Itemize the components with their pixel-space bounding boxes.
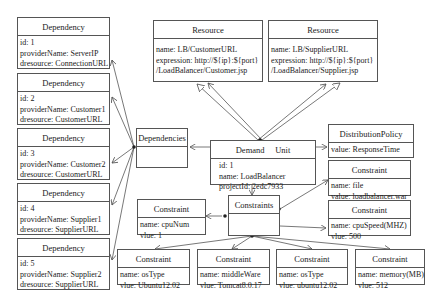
constraint-title: Constraint (329, 201, 410, 219)
dependencies-group-title: Dependencies (137, 129, 187, 147)
demand-unit-id: id: 1 (219, 161, 313, 172)
resource-expression: expression: http://${ip}:${port} (156, 56, 260, 67)
constraints-group-title: Constraints (229, 196, 279, 214)
resource-box-supplier[interactable]: Resource name: LB/SupplierURL expression… (268, 20, 378, 82)
dependency-provider-name: providerName: Supplier1 (20, 215, 107, 226)
dependency-dresource: dresource: CustomerURL (20, 170, 107, 181)
dependency-dresource: dresource: SupplierURL (20, 280, 107, 291)
dependency-id: id: 1 (20, 38, 107, 49)
constraint-name: name: cpuSpeed(MHZ) (331, 221, 408, 232)
dependency-provider-name: providerName: Customer2 (20, 160, 107, 171)
constraint-title: Constraint (138, 200, 205, 218)
dependency-title: Dependency (18, 129, 109, 147)
demand-unit-project-id: projectId: 2edc7933 (219, 182, 313, 193)
dependency-id: id: 2 (20, 94, 107, 105)
resource-path: /LoadBalancer/Supplier.jsp (271, 66, 375, 77)
constraint-value: vlue: 500 (331, 232, 408, 243)
constraint-title: Constraint (356, 250, 424, 268)
constraint-name: name: memory(MB) (358, 270, 422, 281)
dependency-box-4[interactable]: Dependency id: 4 providerName: Supplier1… (17, 183, 110, 235)
dependency-box-2[interactable]: Dependency id: 2 providerName: Customer1… (17, 73, 110, 125)
dependency-provider-name: providerName: Supplier2 (20, 270, 107, 281)
constraint-box-ostype-2[interactable]: Constraint name: osType vlue: ubuntu12.0… (276, 249, 348, 285)
constraint-box-cpunum[interactable]: Constraint name: cpuNum vlue: 1 (137, 199, 206, 235)
constraint-box-ostype-1[interactable]: Constraint name: osType vlue: Ubuntu12.0… (117, 249, 190, 285)
constraint-box-middleware[interactable]: Constraint name: middleWare vlue: Tomcat… (197, 249, 270, 285)
constraint-value: vlue: 1 (140, 231, 203, 242)
constraint-title: Constraint (329, 161, 410, 179)
dependency-box-3[interactable]: Dependency id: 3 providerName: Customer2… (17, 128, 110, 180)
demand-unit-name: name: LoadBalancer (219, 172, 313, 183)
dependency-dresource: dresource: CustomerURL (20, 115, 107, 126)
dependency-box-5[interactable]: Dependency id: 5 providerName: Supplier2… (17, 238, 110, 290)
constraint-title: Constraint (277, 250, 347, 268)
resource-expression: expression: http://${ip}:${port} (271, 56, 375, 67)
distribution-policy-value: value: ResponseTime (331, 145, 411, 156)
constraint-value: vlue: Ubuntu12.02 (120, 281, 187, 292)
constraint-value: vlue: ubuntu12.02 (279, 281, 345, 292)
resource-title: Resource (154, 21, 262, 39)
dependency-dresource: dresource: SupplierURL (20, 225, 107, 236)
constraint-name: name: file (331, 181, 408, 192)
constraint-box-memory[interactable]: Constraint name: memory(MB) vlue: 512 (355, 249, 425, 285)
resource-name: name: LB/SupplierURL (271, 45, 375, 56)
demand-unit-title: Demand Unit (211, 141, 315, 159)
dependency-provider-name: providerName: ServerIP (20, 49, 107, 60)
dependency-title: Dependency (18, 184, 109, 202)
dependency-id: id: 3 (20, 149, 107, 160)
resource-name: name: LB/CustomerURL (156, 45, 260, 56)
constraint-name: name: osType (279, 270, 345, 281)
resource-box-customer[interactable]: Resource name: LB/CustomerURL expression… (153, 20, 263, 82)
constraint-title: Constraint (118, 250, 189, 268)
constraint-name: name: middleWare (200, 270, 267, 281)
dependency-title: Dependency (18, 18, 109, 36)
demand-unit-box[interactable]: Demand Unit id: 1 name: LoadBalancer pro… (210, 140, 316, 185)
constraint-box-cpuspeed[interactable]: Constraint name: cpuSpeed(MHZ) vlue: 500 (328, 200, 411, 236)
dependency-provider-name: providerName: Customer1 (20, 105, 107, 116)
dependency-title: Dependency (18, 74, 109, 92)
dependency-dresource: dresource: ConnectionURL (20, 59, 107, 70)
constraint-value: vlue: Tomcat8.0.17 (200, 281, 267, 292)
resource-path: /LoadBalancer/Customer.jsp (156, 66, 260, 77)
constraint-name: name: cpuNum (140, 220, 203, 231)
dependency-title: Dependency (18, 239, 109, 257)
dependency-box-1[interactable]: Dependency id: 1 providerName: ServerIP … (17, 17, 110, 69)
constraint-title: Constraint (198, 250, 269, 268)
dependency-id: id: 4 (20, 204, 107, 215)
constraint-name: name: osType (120, 270, 187, 281)
constraints-group-box[interactable]: Constraints (228, 195, 280, 236)
distribution-policy-box[interactable]: DistributionPolicy value: ResponseTime (328, 124, 414, 158)
constraint-box-file[interactable]: Constraint name: file value: loadbalance… (328, 160, 411, 196)
dependency-id: id: 5 (20, 259, 107, 270)
distribution-policy-title: DistributionPolicy (329, 125, 413, 143)
resource-title: Resource (269, 21, 377, 39)
constraint-value: vlue: 512 (358, 281, 422, 292)
dependencies-group-box[interactable]: Dependencies (136, 128, 188, 168)
